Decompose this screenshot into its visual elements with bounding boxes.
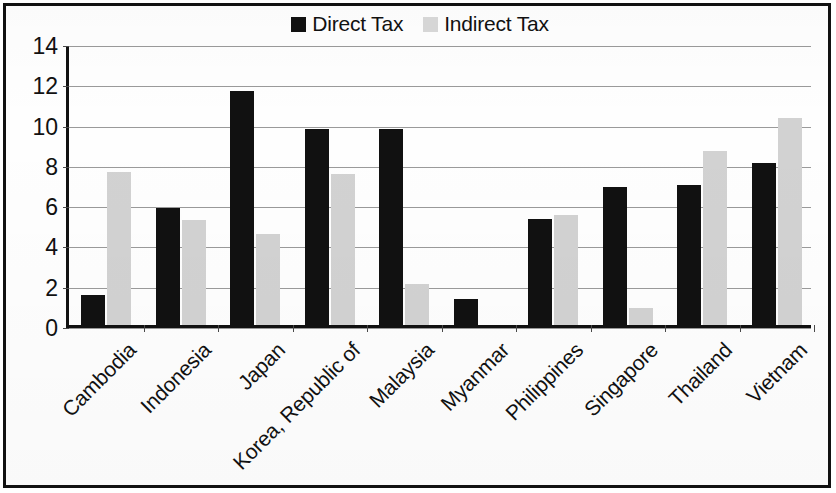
x-axis-tick-label-text: Indonesia	[135, 338, 215, 418]
legend-entry-indirect-tax: Indirect Tax	[423, 12, 549, 36]
bar-direct-tax[interactable]	[305, 129, 329, 325]
legend-label-indirect-tax: Indirect Tax	[444, 12, 549, 36]
x-axis-tick-label-text: Cambodia	[58, 338, 142, 422]
x-axis-tick-label-text: Myanmar	[436, 338, 514, 416]
legend-label-direct-tax: Direct Tax	[312, 12, 403, 36]
y-axis-tick-label: 6	[45, 194, 58, 221]
x-axis-tick-label-text: Thailand	[664, 338, 737, 411]
figure-frame: Direct Tax Indirect Tax 02468101214 Camb…	[3, 3, 831, 488]
y-axis-tick-label: 14	[32, 33, 58, 60]
bar-indirect-tax[interactable]	[107, 172, 131, 325]
legend-swatch-direct-tax-icon	[291, 17, 306, 32]
x-axis-tick-label-text: Malaysia	[365, 338, 439, 412]
x-axis-tick-label-text: Korea, Republic of	[228, 338, 365, 475]
bar-indirect-tax[interactable]	[331, 174, 355, 325]
bar-direct-tax[interactable]	[81, 295, 105, 325]
chart-plot-wrapper: 02468101214 CambodiaIndonesiaJapanKorea,…	[6, 6, 834, 491]
x-axis-tick-label-text: Vietnam	[741, 338, 811, 408]
bar-group	[69, 46, 144, 325]
legend-entry-direct-tax: Direct Tax	[291, 12, 403, 36]
y-axis-tick-mark	[63, 328, 69, 329]
x-axis-tick-label-text: Japan	[233, 338, 290, 395]
y-axis-tick-label: 2	[45, 274, 58, 301]
bar-group	[293, 46, 368, 325]
y-axis-tick-label: 10	[32, 113, 58, 140]
y-axis-tick-label: 8	[45, 153, 58, 180]
y-axis-tick-label: 4	[45, 234, 58, 261]
chart-legend: Direct Tax Indirect Tax	[6, 12, 834, 36]
legend-swatch-indirect-tax-icon	[423, 17, 438, 32]
y-axis-tick-label: 0	[45, 315, 58, 342]
y-axis-tick-label: 12	[32, 73, 58, 100]
